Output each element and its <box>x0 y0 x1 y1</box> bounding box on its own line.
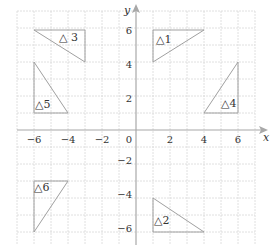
y-tick: 6 <box>126 25 132 36</box>
y-tick: 2 <box>126 93 132 104</box>
x-tick: −4 <box>61 134 76 145</box>
triangle-6-label: △6 <box>34 181 49 194</box>
triangle-3-label: △ 3 <box>59 31 78 44</box>
x-tick: 2 <box>167 134 173 145</box>
x-tick: 6 <box>235 134 241 145</box>
x-tick: 0 <box>126 134 132 145</box>
x-tick: −6 <box>27 134 42 145</box>
x-axis-label: x <box>263 131 270 144</box>
triangle-2-label: △2 <box>154 214 169 227</box>
triangle-4-label: △4 <box>221 97 236 110</box>
triangle-1-label: △1 <box>156 33 171 46</box>
triangle-5-label: △5 <box>35 98 50 111</box>
x-tick: 4 <box>201 134 207 145</box>
x-tick: −2 <box>95 134 110 145</box>
y-tick: −6 <box>117 223 132 234</box>
y-tick: −4 <box>117 189 132 200</box>
y-tick: 4 <box>126 59 132 70</box>
y-tick: −2 <box>117 155 132 166</box>
y-axis-label: y <box>123 4 131 17</box>
x-tick-labels: −6 −4 −2 0 2 4 6 <box>27 134 242 145</box>
coordinate-plane: x y −6 −4 −2 0 2 4 6 6 4 2 −2 −4 −6 △1 △… <box>0 0 275 251</box>
